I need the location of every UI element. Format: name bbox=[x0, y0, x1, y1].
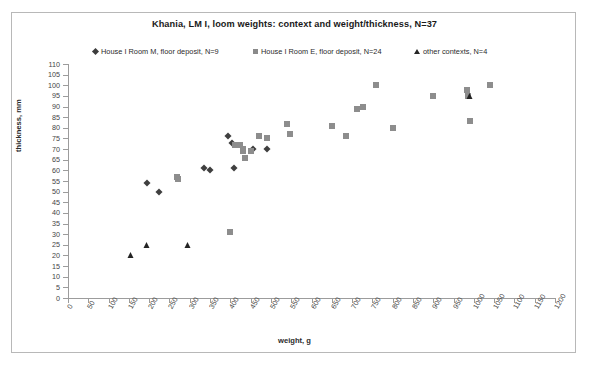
y-tick-label: 0 bbox=[36, 295, 60, 302]
data-point-square bbox=[175, 176, 181, 182]
data-point-diamond bbox=[231, 165, 238, 172]
triangle-marker-icon bbox=[414, 49, 420, 54]
data-point-triangle bbox=[144, 242, 150, 248]
y-tick-label: 50 bbox=[36, 188, 60, 195]
y-tick-label: 85 bbox=[36, 114, 60, 121]
legend-label-2: House I Room E, floor deposit, N=24 bbox=[261, 47, 382, 56]
legend-item-other-contexts: other contexts, N=4 bbox=[414, 47, 487, 56]
data-point-triangle bbox=[127, 252, 133, 258]
y-tick-label: 30 bbox=[36, 231, 60, 238]
data-point-square bbox=[373, 82, 379, 88]
y-tick-label: 60 bbox=[36, 167, 60, 174]
y-tick-label: 5 bbox=[36, 284, 60, 291]
diamond-marker-icon bbox=[92, 48, 99, 55]
chart-page: Khania, LM I, loom weights: context and … bbox=[0, 0, 589, 365]
y-tick-label: 20 bbox=[36, 252, 60, 259]
y-tick-label: 75 bbox=[36, 135, 60, 142]
data-point-square bbox=[464, 87, 470, 93]
y-tick-label: 110 bbox=[36, 61, 60, 68]
data-point-diamond bbox=[263, 146, 270, 153]
chart-legend: House I Room M, floor deposit, N=9 House… bbox=[0, 47, 589, 61]
plot-area bbox=[68, 64, 555, 298]
data-point-diamond bbox=[156, 188, 163, 195]
data-point-square bbox=[390, 125, 396, 131]
data-point-square bbox=[227, 229, 233, 235]
data-point-square bbox=[264, 135, 270, 141]
legend-label-1: House I Room M, floor deposit, N=9 bbox=[101, 47, 219, 56]
square-marker-icon bbox=[253, 49, 258, 54]
y-tick-label: 105 bbox=[36, 71, 60, 78]
data-point-square bbox=[430, 93, 436, 99]
chart-title: Khania, LM I, loom weights: context and … bbox=[0, 19, 589, 29]
y-tick-label: 65 bbox=[36, 156, 60, 163]
data-point-square bbox=[256, 133, 262, 139]
y-tick-label: 45 bbox=[36, 199, 60, 206]
data-point-square bbox=[284, 121, 290, 127]
y-tick-label: 10 bbox=[36, 273, 60, 280]
legend-item-house-room-e: House I Room E, floor deposit, N=24 bbox=[253, 47, 382, 56]
data-point-square bbox=[242, 155, 248, 161]
y-axis-title: thickness, mm bbox=[14, 99, 23, 152]
legend-item-house-room-m: House I Room M, floor deposit, N=9 bbox=[93, 47, 219, 56]
data-point-square bbox=[467, 118, 473, 124]
y-tick-label: 70 bbox=[36, 146, 60, 153]
data-point-triangle bbox=[466, 93, 472, 99]
y-tick-label: 100 bbox=[36, 82, 60, 89]
y-tick-label: 95 bbox=[36, 92, 60, 99]
data-point-square bbox=[329, 123, 335, 129]
data-point-square bbox=[487, 82, 493, 88]
data-point-square bbox=[240, 146, 246, 152]
data-point-square bbox=[287, 131, 293, 137]
data-point-diamond bbox=[206, 167, 213, 174]
data-point-square bbox=[248, 148, 254, 154]
y-tick-label: 90 bbox=[36, 103, 60, 110]
y-tick-label: 35 bbox=[36, 220, 60, 227]
y-tick-label: 40 bbox=[36, 209, 60, 216]
y-tick-label: 15 bbox=[36, 263, 60, 270]
data-point-triangle bbox=[184, 242, 190, 248]
data-point-square bbox=[360, 104, 366, 110]
y-tick-label: 25 bbox=[36, 241, 60, 248]
x-axis-title: weight, g bbox=[0, 336, 589, 345]
legend-label-3: other contexts, N=4 bbox=[423, 47, 487, 56]
y-tick-label: 55 bbox=[36, 178, 60, 185]
data-point-diamond bbox=[144, 180, 151, 187]
y-tick-label: 80 bbox=[36, 124, 60, 131]
data-point-square bbox=[343, 133, 349, 139]
